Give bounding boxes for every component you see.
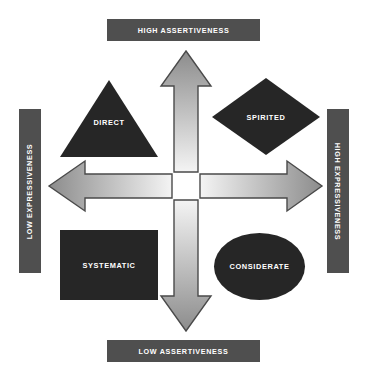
axis-bar-high-assertiveness: HIGH ASSERTIVENESS: [107, 19, 260, 41]
quadrant-shape-considerate: [214, 233, 305, 300]
quadrant-shape-direct: [60, 80, 158, 157]
quadrant-shape-systematic: [60, 230, 158, 300]
axis-label-high-expressiveness: HIGH EXPRESSIVENESS: [334, 142, 343, 239]
axis-bar-low-assertiveness: LOW ASSERTIVENESS: [107, 340, 260, 362]
quadrant-shape-spirited: [212, 78, 320, 155]
axis-bar-low-expressiveness: LOW EXPRESSIVENESS: [19, 109, 41, 273]
axis-label-high-assertiveness: HIGH ASSERTIVENESS: [138, 26, 230, 35]
axis-bar-high-expressiveness: HIGH EXPRESSIVENESS: [327, 109, 349, 273]
axis-label-low-assertiveness: LOW ASSERTIVENESS: [139, 347, 229, 356]
quadrant-shape-layer: [0, 0, 368, 380]
axis-label-low-expressiveness: LOW EXPRESSIVENESS: [26, 143, 35, 239]
behavioral-styles-quadrant-diagram: DIRECT SPIRITED SYSTEMATIC CONSIDERATE H…: [0, 0, 368, 380]
